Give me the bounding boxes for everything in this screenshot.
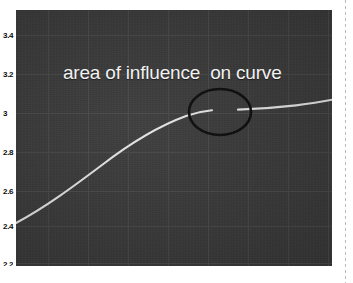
area-of-influence-label: area of influence on curve: [63, 62, 282, 84]
y-tick-label-2-2: 2.2: [3, 260, 13, 266]
gridlines: [16, 10, 332, 266]
curve-line-left: [16, 110, 212, 223]
y-tick-label-3: 3: [3, 109, 7, 118]
y-tick-label-3-4: 3.4: [3, 31, 13, 40]
y-tick-label-2-8: 2.8: [3, 148, 13, 157]
plot-canvas: [16, 10, 332, 266]
curve-line-right: [238, 100, 332, 110]
y-tick-label-3-2: 3.2: [3, 70, 13, 79]
y-tick-label-2-6: 2.6: [3, 187, 13, 196]
page-margin-rule: [345, 0, 346, 283]
screenshot-root: area of influence on curve 3.4 3.2 3 2.8…: [0, 0, 353, 283]
y-tick-label-2-4: 2.4: [3, 222, 13, 231]
chart-figure: area of influence on curve: [16, 10, 332, 266]
